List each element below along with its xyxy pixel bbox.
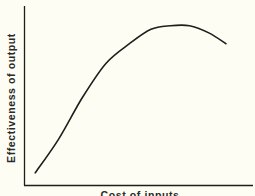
effectiveness-curve	[35, 25, 226, 173]
x-axis-label: Cost of inputs	[101, 189, 180, 196]
y-axis-label: Effectiveness of output	[5, 33, 17, 163]
chart-canvas	[0, 0, 255, 196]
